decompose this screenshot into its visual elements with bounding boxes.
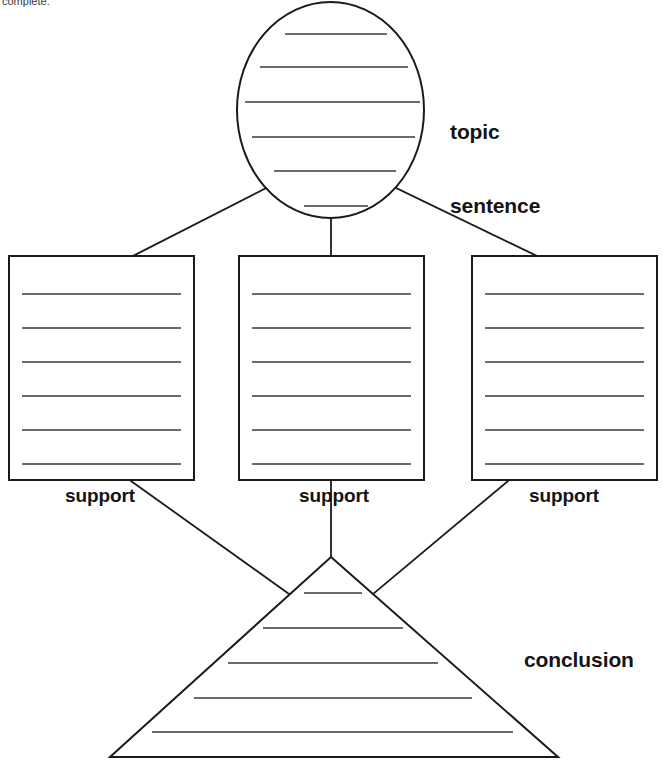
label-topic-sentence-line2: sentence xyxy=(450,194,540,219)
connector-support-right-to-conclusion xyxy=(373,481,508,594)
topic-sentence-circle[interactable] xyxy=(237,2,424,218)
label-support-middle: support xyxy=(299,485,369,507)
label-support-left: support xyxy=(65,485,135,507)
connector-circle-to-support-left xyxy=(133,185,272,256)
support-box-left-outline xyxy=(9,256,194,480)
label-topic-sentence-line1: topic xyxy=(450,120,540,145)
connector-support-left-to-conclusion xyxy=(131,481,289,594)
support-box-right[interactable] xyxy=(472,256,657,480)
support-box-middle-outline xyxy=(239,256,424,480)
graphic-organizer: complete. xyxy=(0,0,663,771)
support-box-left[interactable] xyxy=(9,256,194,480)
label-support-right: support xyxy=(529,485,599,507)
support-box-middle[interactable] xyxy=(239,256,424,480)
conclusion-triangle-outline xyxy=(110,557,558,757)
support-box-right-outline xyxy=(472,256,657,480)
label-topic-sentence: topic sentence xyxy=(450,70,540,268)
label-conclusion: conclusion xyxy=(524,648,634,673)
conclusion-triangle[interactable] xyxy=(110,557,558,757)
